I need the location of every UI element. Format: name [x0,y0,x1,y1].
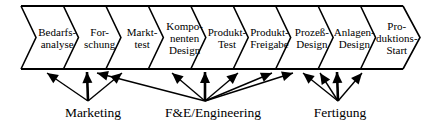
flow-arrow [205,73,238,101]
stage-label-5: Produkt-Test [208,26,247,50]
stage-label-3: Markt-test [127,26,158,50]
flow-arrow [205,73,293,101]
stage-label-2: For-schung [84,26,116,50]
flow-arrow [87,72,88,101]
stage-label-4: Kompo-nentenDesign [166,20,203,56]
stage-label-1: Bedarfs-analyse [38,26,76,50]
function-group-1: Marketing [47,72,122,120]
flow-arrow [320,73,338,101]
stage-label-7: Prozeß-Design [295,26,330,50]
function-label-3: Fertigung [314,105,367,120]
stage-label-8: Anlagen-Design [334,26,375,50]
function-label-2: F&E/Engineering [165,105,261,120]
flow-arrow [337,72,338,101]
function-group-3: Fertigung [303,72,366,120]
flow-arrow [205,73,272,101]
function-label-1: Marketing [65,105,121,120]
process-chain-diagram: Bedarfs-analyseFor-schungMarkt-testKompo… [0,0,442,127]
chevron-divider [21,6,36,69]
diagram-canvas: Bedarfs-analyseFor-schungMarkt-testKompo… [0,0,442,127]
flow-arrow [303,73,338,101]
flow-arrow [338,73,362,101]
chevron-divider [148,6,163,69]
function-group-2: F&E/Engineering [97,72,293,120]
flow-arrow [88,73,122,101]
flow-arrow [47,73,88,101]
stage-label-9: Pro-duktions-Start [376,20,418,56]
stage-label-6: Produkt-Freigabe [250,26,289,50]
